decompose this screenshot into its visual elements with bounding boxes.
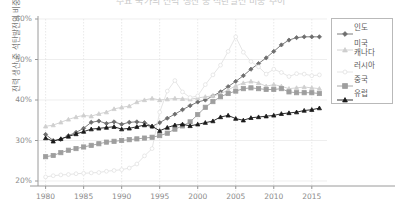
series-러시아: [44, 35, 322, 179]
legend-marker-icon: [336, 24, 354, 34]
legend-item-인도[interactable]: 인도: [336, 23, 394, 34]
legend-marker-icon: [336, 90, 354, 100]
legend-label: 러시아: [354, 61, 375, 70]
y-tick-label: 50%: [4, 55, 32, 64]
x-tick-label: 1995: [140, 192, 180, 201]
x-tick-label: 1985: [64, 192, 104, 201]
x-tick-label: 2015: [292, 192, 332, 201]
x-tick-label: 1990: [102, 192, 142, 201]
y-tick-label: 40%: [4, 95, 32, 104]
legend-label: 인도: [354, 23, 368, 32]
chart-legend: 인도미국 캐나다러시아중국유럽: [331, 18, 393, 104]
legend-marker-icon: [336, 40, 354, 50]
x-tick-label: 1980: [26, 192, 66, 201]
legend-item-러시아[interactable]: 러시아: [336, 61, 394, 72]
legend-label: 유럽: [354, 89, 368, 98]
y-tick-label: 60%: [4, 14, 32, 23]
legend-item-유럽[interactable]: 유럽: [336, 89, 394, 100]
legend-label: 미국 캐나다: [354, 39, 375, 57]
chart-figure: 주요 국가의 전력 생산 중 석탄발전 비중 추이 전력 생산 중 석탄발전의 …: [0, 0, 401, 214]
legend-marker-icon: [336, 62, 354, 72]
legend-label: 중국: [354, 75, 368, 84]
x-tick-label: 2000: [178, 192, 218, 201]
y-tick-label: 20%: [4, 176, 32, 185]
x-tick-label: 2005: [216, 192, 256, 201]
legend-marker-icon: [336, 76, 354, 86]
legend-item-중국[interactable]: 중국: [336, 75, 394, 86]
x-tick-label: 2010: [254, 192, 294, 201]
y-tick-label: 30%: [4, 136, 32, 145]
legend-item-미국-캐나다[interactable]: 미국 캐나다: [336, 39, 394, 57]
